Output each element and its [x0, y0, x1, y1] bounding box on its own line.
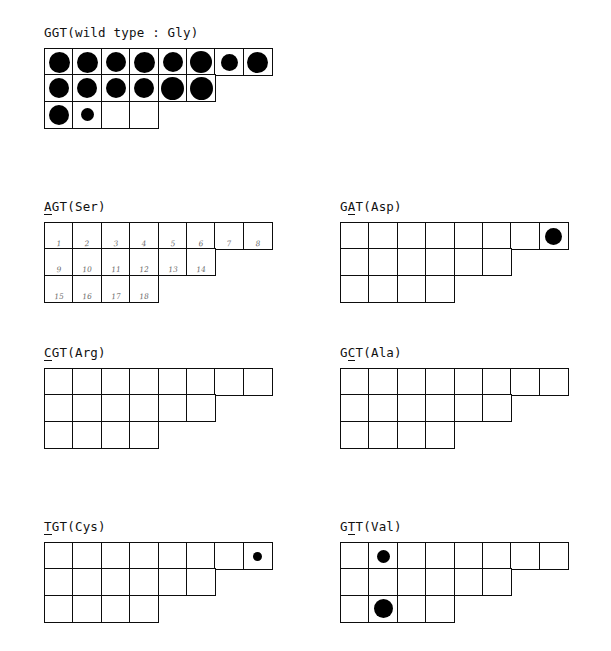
blot-cell[interactable]: 11: [101, 248, 131, 276]
blot-cell[interactable]: [482, 394, 512, 422]
blot-cell[interactable]: [539, 222, 569, 250]
blot-cell[interactable]: [158, 368, 188, 396]
blot-cell[interactable]: [101, 595, 131, 623]
blot-cell[interactable]: [340, 222, 370, 250]
blot-cell[interactable]: 4: [129, 222, 159, 250]
blot-cell[interactable]: 5: [158, 222, 188, 250]
blot-cell[interactable]: [101, 48, 131, 76]
blot-cell[interactable]: [397, 248, 427, 276]
blot-cell[interactable]: [340, 421, 370, 449]
blot-cell[interactable]: [101, 74, 131, 102]
blot-cell[interactable]: [454, 542, 484, 570]
blot-cell[interactable]: [129, 421, 159, 449]
blot-cell[interactable]: [425, 421, 455, 449]
blot-cell[interactable]: [101, 421, 131, 449]
blot-cell[interactable]: [368, 222, 398, 250]
blot-cell[interactable]: [482, 368, 512, 396]
blot-cell[interactable]: [340, 542, 370, 570]
blot-cell[interactable]: [129, 101, 159, 129]
blot-cell[interactable]: [425, 275, 455, 303]
blot-cell[interactable]: [397, 275, 427, 303]
blot-cell[interactable]: [482, 222, 512, 250]
blot-cell[interactable]: [340, 368, 370, 396]
blot-cell[interactable]: [72, 568, 102, 596]
blot-cell[interactable]: [72, 48, 102, 76]
blot-cell[interactable]: [158, 568, 188, 596]
blot-cell[interactable]: [454, 222, 484, 250]
blot-cell[interactable]: [129, 368, 159, 396]
blot-cell[interactable]: [44, 542, 74, 570]
blot-cell[interactable]: [129, 394, 159, 422]
blot-cell[interactable]: 3: [101, 222, 131, 250]
blot-cell[interactable]: [44, 421, 74, 449]
blot-cell[interactable]: [368, 368, 398, 396]
blot-cell[interactable]: [510, 222, 540, 250]
blot-cell[interactable]: [368, 394, 398, 422]
blot-cell[interactable]: [425, 595, 455, 623]
blot-cell[interactable]: [72, 101, 102, 129]
blot-cell[interactable]: [425, 394, 455, 422]
blot-cell[interactable]: [482, 568, 512, 596]
blot-cell[interactable]: [510, 368, 540, 396]
blot-cell[interactable]: [340, 394, 370, 422]
blot-cell[interactable]: [397, 222, 427, 250]
blot-cell[interactable]: [454, 368, 484, 396]
blot-cell[interactable]: [186, 394, 216, 422]
blot-cell[interactable]: [397, 368, 427, 396]
blot-cell[interactable]: 14: [186, 248, 216, 276]
blot-cell[interactable]: [482, 542, 512, 570]
blot-cell[interactable]: [454, 248, 484, 276]
blot-cell[interactable]: [397, 421, 427, 449]
blot-cell[interactable]: [101, 101, 131, 129]
blot-cell[interactable]: [397, 542, 427, 570]
blot-cell[interactable]: [158, 394, 188, 422]
blot-cell[interactable]: [44, 74, 74, 102]
blot-cell[interactable]: [340, 275, 370, 303]
blot-cell[interactable]: 10: [72, 248, 102, 276]
blot-cell[interactable]: 18: [129, 275, 159, 303]
blot-cell[interactable]: 7: [214, 222, 244, 250]
blot-cell[interactable]: [425, 368, 455, 396]
blot-cell[interactable]: [214, 542, 244, 570]
blot-cell[interactable]: 13: [158, 248, 188, 276]
blot-cell[interactable]: [243, 542, 273, 570]
blot-cell[interactable]: [340, 595, 370, 623]
blot-cell[interactable]: [129, 568, 159, 596]
blot-cell[interactable]: [482, 248, 512, 276]
blot-cell[interactable]: [425, 222, 455, 250]
blot-cell[interactable]: 15: [44, 275, 74, 303]
blot-cell[interactable]: [72, 542, 102, 570]
blot-cell[interactable]: [368, 421, 398, 449]
blot-cell[interactable]: [510, 542, 540, 570]
blot-cell[interactable]: [397, 394, 427, 422]
blot-cell[interactable]: [129, 74, 159, 102]
blot-cell[interactable]: [214, 48, 244, 76]
blot-cell[interactable]: [425, 542, 455, 570]
blot-cell[interactable]: [340, 248, 370, 276]
blot-cell[interactable]: [101, 542, 131, 570]
blot-cell[interactable]: [368, 595, 398, 623]
blot-cell[interactable]: [129, 48, 159, 76]
blot-cell[interactable]: [425, 248, 455, 276]
blot-cell[interactable]: 12: [129, 248, 159, 276]
blot-cell[interactable]: 1: [44, 222, 74, 250]
blot-cell[interactable]: [158, 74, 188, 102]
blot-cell[interactable]: 6: [186, 222, 216, 250]
blot-cell[interactable]: [129, 595, 159, 623]
blot-cell[interactable]: [101, 394, 131, 422]
blot-cell[interactable]: [129, 542, 159, 570]
blot-cell[interactable]: [44, 595, 74, 623]
blot-cell[interactable]: [44, 568, 74, 596]
blot-cell[interactable]: [368, 568, 398, 596]
blot-cell[interactable]: [44, 101, 74, 129]
blot-cell[interactable]: [243, 48, 273, 76]
blot-cell[interactable]: [44, 368, 74, 396]
blot-cell[interactable]: [158, 542, 188, 570]
blot-cell[interactable]: [340, 568, 370, 596]
blot-cell[interactable]: 9: [44, 248, 74, 276]
blot-cell[interactable]: 8: [243, 222, 273, 250]
blot-cell[interactable]: [539, 368, 569, 396]
blot-cell[interactable]: [101, 568, 131, 596]
blot-cell[interactable]: 17: [101, 275, 131, 303]
blot-cell[interactable]: [72, 394, 102, 422]
